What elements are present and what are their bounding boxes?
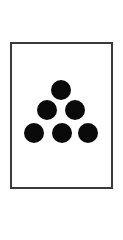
dot-icon xyxy=(24,123,44,143)
dot-icon xyxy=(52,123,72,143)
dot-icon xyxy=(78,123,98,143)
dot-icon xyxy=(37,100,57,120)
dot-icon xyxy=(65,100,85,120)
dot-card: Card with six dots xyxy=(10,42,113,189)
dot-icon xyxy=(51,80,71,100)
